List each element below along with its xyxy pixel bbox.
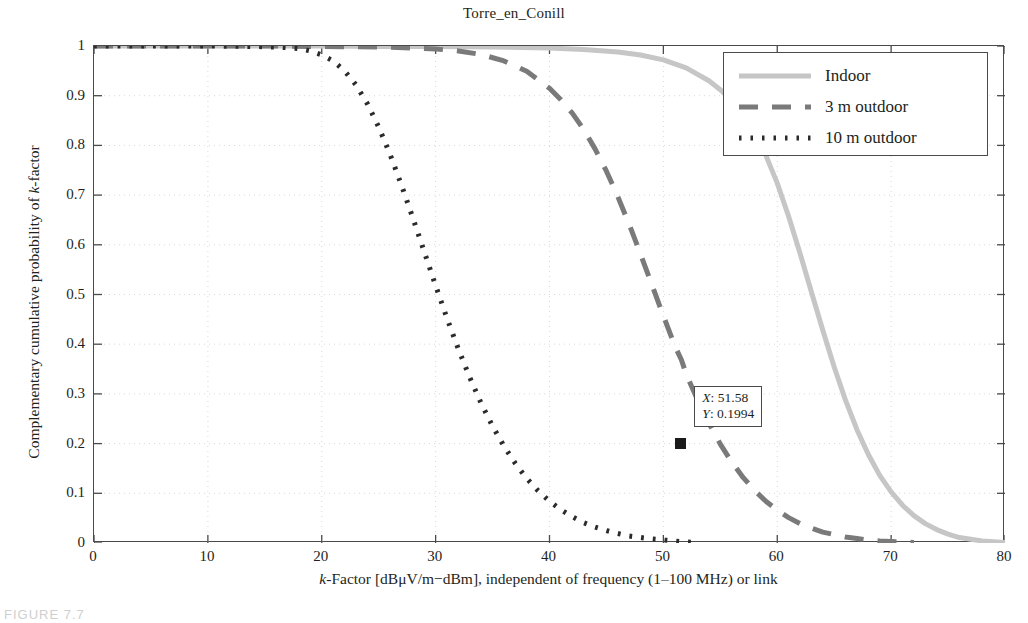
legend-item-10m-outdoor: 10 m outdoor <box>724 122 987 153</box>
legend-label-3m-outdoor: 3 m outdoor <box>825 97 908 117</box>
data-tip-x-value: : <box>711 390 718 405</box>
y-axis-title-post: -factor <box>25 145 42 186</box>
legend: Indoor 3 m outdoor 10 m outdoor <box>723 52 988 156</box>
data-tip-x-label: X <box>702 390 710 405</box>
x-tick-label: 60 <box>769 548 784 565</box>
data-tip-y-number: 0.1994 <box>717 406 754 421</box>
x-axis-title-rest: -Factor [dBμV/m−dBm], independent of fre… <box>326 570 777 587</box>
y-axis-title-pre: Complementary cumulative probability of <box>25 194 42 459</box>
data-tip-x: X: 51.58 <box>702 390 754 406</box>
y-axis-title: Complementary cumulative probability of … <box>25 52 43 552</box>
legend-swatch-indoor-icon <box>738 70 812 82</box>
x-tick-label: 70 <box>883 548 898 565</box>
x-axis-title: k-Factor [dBμV/m−dBm], independent of fr… <box>93 570 1004 588</box>
legend-swatch-10m-outdoor-icon <box>738 132 812 144</box>
data-tip-y: Y: 0.1994 <box>702 406 754 422</box>
x-tick-label: 80 <box>997 548 1012 565</box>
data-tip-y-value: : <box>710 406 717 421</box>
legend-swatch-3m-outdoor-icon <box>738 101 812 113</box>
data-tip-x-number: 51.58 <box>718 390 748 405</box>
x-tick-label: 40 <box>541 548 556 565</box>
x-tick-label: 0 <box>89 548 97 565</box>
y-axis-title-italic: k <box>25 187 42 194</box>
figure-caption: FIGURE 7.7 <box>4 607 85 622</box>
figure-root: Torre_en_Conill 00.10.20.30.40.50.60.70.… <box>0 0 1028 623</box>
data-tip-y-label: Y <box>702 406 710 421</box>
data-tip-marker <box>675 438 686 449</box>
x-tick-label: 30 <box>427 548 442 565</box>
legend-label-indoor: Indoor <box>825 66 870 86</box>
x-tick-label: 10 <box>199 548 214 565</box>
legend-label-10m-outdoor: 10 m outdoor <box>825 128 917 148</box>
x-tick-label: 20 <box>313 548 328 565</box>
legend-item-3m-outdoor: 3 m outdoor <box>724 91 987 122</box>
legend-item-indoor: Indoor <box>724 60 987 91</box>
data-tip: X: 51.58 Y: 0.1994 <box>694 386 762 427</box>
x-tick-label: 50 <box>655 548 670 565</box>
